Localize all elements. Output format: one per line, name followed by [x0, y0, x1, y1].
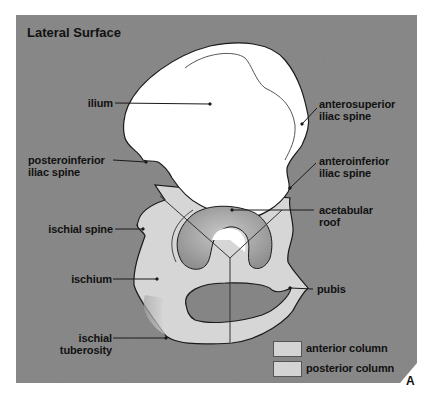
- label-line-2: iliac spine: [319, 167, 389, 179]
- label-line-1: anterosuperior: [319, 98, 395, 110]
- label-acetabular-roof: acetabular roof: [319, 204, 373, 228]
- label-text: ilium: [88, 97, 113, 109]
- figure-title: Lateral Surface: [27, 25, 121, 40]
- label-text: pubis: [317, 283, 346, 295]
- label-ischium: ischium: [71, 273, 112, 285]
- label-line-2: roof: [319, 216, 373, 228]
- label-line-1: anteroinferior: [319, 155, 389, 167]
- label-text: ischium: [71, 273, 112, 285]
- label-pubis: pubis: [317, 283, 346, 295]
- legend-label-posterior: posterior column: [306, 362, 394, 374]
- label-ilium: ilium: [88, 97, 113, 109]
- label-anterosuperior-iliac-spine: anterosuperior iliac spine: [319, 98, 395, 122]
- label-line-2: tuberosity: [60, 344, 112, 356]
- legend-swatch-posterior: [273, 361, 302, 377]
- pelvis-lateral-diagram: Lateral Surface ilium posteroinferior il…: [0, 0, 430, 399]
- label-line-1: acetabular: [319, 204, 373, 216]
- label-line-2: iliac spine: [28, 166, 105, 178]
- legend-label-anterior: anterior column: [306, 342, 388, 354]
- label-line-2: iliac spine: [319, 110, 395, 122]
- label-ischial-tuberosity: ischial tuberosity: [60, 332, 112, 356]
- legend-swatch-anterior: [273, 341, 302, 357]
- label-text: ischial spine: [48, 223, 113, 235]
- label-ischial-spine: ischial spine: [48, 223, 113, 235]
- label-line-1: posteroinferior: [28, 154, 105, 166]
- label-line-1: ischial: [60, 332, 112, 344]
- label-posteroinferior-iliac-spine: posteroinferior iliac spine: [28, 154, 105, 178]
- label-anteroinferior-iliac-spine: anteroinferior iliac spine: [319, 155, 389, 179]
- panel-letter: A: [406, 374, 415, 388]
